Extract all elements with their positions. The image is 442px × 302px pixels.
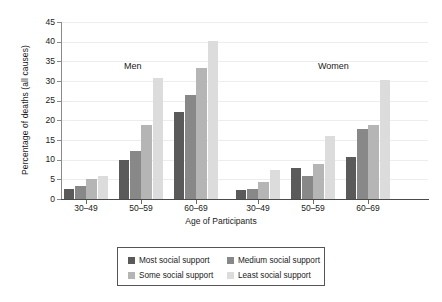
bar bbox=[270, 170, 281, 199]
bar bbox=[64, 189, 75, 199]
legend-item-some-social-support: Some social support bbox=[128, 271, 213, 280]
panel-label-men: Men bbox=[124, 61, 142, 71]
bar bbox=[302, 176, 313, 199]
bar bbox=[75, 186, 86, 199]
gridline bbox=[62, 61, 428, 62]
legend-label: Medium social support bbox=[238, 256, 320, 265]
legend-swatch-icon bbox=[227, 272, 234, 279]
bar bbox=[291, 168, 302, 199]
bar bbox=[196, 68, 207, 199]
bar bbox=[368, 125, 379, 199]
plot-area bbox=[62, 22, 428, 199]
legend-swatch-icon bbox=[128, 257, 135, 264]
x-axis-line bbox=[61, 199, 429, 200]
y-tick-label: 10 bbox=[37, 155, 55, 164]
x-axis-title: Age of Participants bbox=[0, 216, 442, 226]
bar bbox=[119, 160, 130, 199]
bar bbox=[258, 182, 269, 199]
y-tick-label: 40 bbox=[37, 37, 55, 46]
panel-label-women: Women bbox=[318, 61, 349, 71]
x-category-label: 30–49 bbox=[61, 203, 111, 213]
bar bbox=[98, 176, 109, 199]
bar bbox=[130, 151, 141, 199]
bar-chart: Percentage of deaths (all causes) 051015… bbox=[0, 0, 442, 302]
x-category-label: 60–69 bbox=[343, 203, 393, 213]
legend-swatch-icon bbox=[128, 272, 135, 279]
bar bbox=[174, 112, 185, 199]
gridline bbox=[62, 81, 428, 82]
bar bbox=[153, 78, 164, 199]
y-tick-label: 25 bbox=[37, 96, 55, 105]
x-category-label: 60–69 bbox=[171, 203, 221, 213]
legend-item-medium-social-support: Medium social support bbox=[227, 256, 320, 265]
legend: Most social support Medium social suppor… bbox=[117, 247, 325, 286]
bar bbox=[236, 190, 247, 199]
legend-label: Some social support bbox=[139, 271, 213, 280]
bar bbox=[346, 157, 357, 199]
bar bbox=[325, 136, 336, 199]
legend-item-least-social-support: Least social support bbox=[227, 271, 311, 280]
y-tick-label: 15 bbox=[37, 136, 55, 145]
y-tick-label: 20 bbox=[37, 116, 55, 125]
gridline bbox=[62, 101, 428, 102]
gridline bbox=[62, 120, 428, 121]
x-category-label: 30–49 bbox=[233, 203, 283, 213]
legend-label: Least social support bbox=[238, 271, 311, 280]
bar bbox=[380, 80, 391, 199]
y-tick-label: 5 bbox=[37, 175, 55, 184]
bar bbox=[86, 179, 97, 199]
gridline bbox=[62, 22, 428, 23]
bar bbox=[313, 164, 324, 199]
bar bbox=[247, 189, 258, 199]
legend-label: Most social support bbox=[139, 256, 210, 265]
legend-swatch-icon bbox=[227, 257, 234, 264]
y-tick-label: 35 bbox=[37, 57, 55, 66]
bar bbox=[208, 41, 219, 200]
y-tick-label: 0 bbox=[37, 195, 55, 204]
x-category-label: 50–59 bbox=[288, 203, 338, 213]
bar bbox=[185, 95, 196, 199]
bar bbox=[357, 129, 368, 199]
y-axis-title: Percentage of deaths (all causes) bbox=[20, 15, 30, 205]
x-category-label: 50–59 bbox=[116, 203, 166, 213]
y-tick-label: 45 bbox=[37, 18, 55, 27]
bar bbox=[141, 125, 152, 199]
y-tick-label: 30 bbox=[37, 77, 55, 86]
gridline bbox=[62, 42, 428, 43]
legend-item-most-social-support: Most social support bbox=[128, 256, 210, 265]
